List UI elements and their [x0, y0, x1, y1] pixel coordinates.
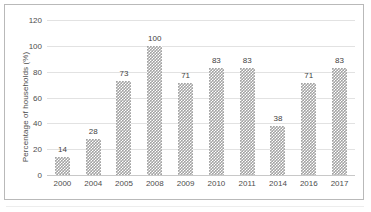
bar[interactable]	[301, 83, 316, 175]
bar-value-label: 100	[148, 35, 161, 43]
bar-value-label: 83	[243, 57, 252, 65]
y-axis-title: Percentage of households (%)	[21, 42, 33, 172]
x-tick-label: 2011	[232, 179, 263, 193]
bar-slot: 28	[78, 20, 109, 175]
plot-area: 020406080100120 142873100718383387183	[47, 20, 355, 175]
bar-slot: 83	[324, 20, 355, 175]
bar[interactable]	[116, 81, 131, 175]
bar-value-label: 71	[304, 72, 313, 80]
y-tick-label: 120	[29, 16, 42, 25]
bar[interactable]	[86, 139, 101, 175]
x-tick-label: 2010	[201, 179, 232, 193]
bar[interactable]	[240, 68, 255, 175]
bar[interactable]	[332, 68, 347, 175]
y-tick-label: 20	[33, 145, 42, 154]
x-tick-label: 2014	[263, 179, 294, 193]
bar[interactable]	[209, 68, 224, 175]
gridline-0: 0	[47, 175, 355, 176]
chart-screenshot: Percentage of households (%) 02040608010…	[0, 0, 371, 212]
bottom-edge-artifact	[6, 206, 364, 207]
bar-value-label: 71	[181, 72, 190, 80]
bar-slot: 14	[47, 20, 78, 175]
bar-value-label: 28	[89, 128, 98, 136]
x-tick-label: 2005	[109, 179, 140, 193]
bar-slot: 71	[293, 20, 324, 175]
bar-slot: 38	[263, 20, 294, 175]
y-tick-label: 0	[38, 171, 42, 180]
y-tick-label: 80	[33, 67, 42, 76]
y-tick-label: 100	[29, 41, 42, 50]
bar-value-label: 83	[212, 57, 221, 65]
bar-value-label: 73	[120, 70, 129, 78]
x-tick-label: 2017	[324, 179, 355, 193]
bar-value-label: 38	[274, 115, 283, 123]
bar-slot: 83	[201, 20, 232, 175]
x-axis-tick-labels: 2000200420052008200920102011201420162017	[47, 179, 355, 193]
x-tick-label: 2008	[139, 179, 170, 193]
bar-slot: 100	[139, 20, 170, 175]
bar-value-label: 83	[335, 57, 344, 65]
bar-slot: 73	[109, 20, 140, 175]
bar[interactable]	[178, 83, 193, 175]
bar[interactable]	[147, 46, 162, 175]
x-tick-label: 2000	[47, 179, 78, 193]
bar[interactable]	[270, 126, 285, 175]
bar[interactable]	[55, 157, 70, 175]
y-tick-label: 40	[33, 119, 42, 128]
y-tick-label: 60	[33, 93, 42, 102]
bar-value-label: 14	[58, 146, 67, 154]
x-tick-label: 2004	[78, 179, 109, 193]
x-tick-label: 2016	[293, 179, 324, 193]
bar-slot: 83	[232, 20, 263, 175]
bar-slot: 71	[170, 20, 201, 175]
x-tick-label: 2009	[170, 179, 201, 193]
bar-series: 142873100718383387183	[47, 20, 355, 175]
